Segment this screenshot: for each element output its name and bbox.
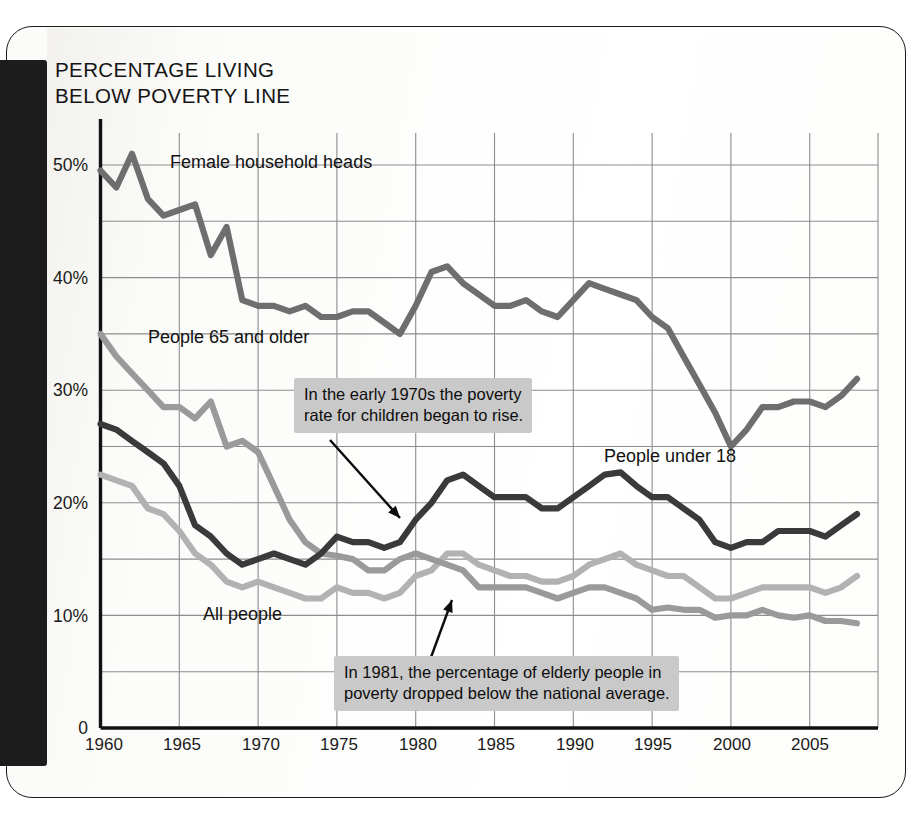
y-tick-label: 50% [18, 155, 88, 176]
y-tick-label: 30% [18, 380, 88, 401]
series-line [101, 424, 858, 565]
series-label-under18: People under 18 [604, 446, 736, 467]
y-tick-label: 10% [18, 606, 88, 627]
x-tick-label: 1980 [388, 735, 448, 755]
x-tick-label: 1990 [545, 735, 605, 755]
x-tick-label: 2005 [780, 735, 840, 755]
y-tick-label: 20% [18, 493, 88, 514]
series-label-elderly: People 65 and older [148, 327, 309, 348]
x-tick-label: 1965 [152, 735, 212, 755]
x-tick-label: 1985 [466, 735, 526, 755]
x-tick-label: 1995 [623, 735, 683, 755]
x-tick-label: 1975 [309, 735, 369, 755]
callout-elderly-below-average: In 1981, the percentage of elderly peopl… [334, 656, 679, 711]
series-label-all-people: All people [203, 604, 282, 625]
book-page: PERCENTAGE LIVING BELOW POVERTY LINE 50%… [0, 0, 917, 827]
annotation-arrows [330, 440, 453, 660]
y-tick-label: 40% [18, 268, 88, 289]
callout-children-rise: In the early 1970s the poverty rate for … [294, 378, 532, 433]
x-tick-label: 1970 [231, 735, 291, 755]
x-tick-label: 2000 [702, 735, 762, 755]
series-label-female-heads: Female household heads [170, 152, 372, 173]
x-tick-label: 1960 [74, 735, 134, 755]
